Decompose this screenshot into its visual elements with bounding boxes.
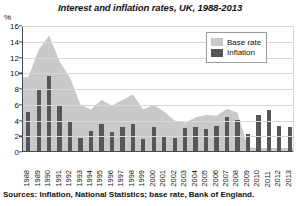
x-axis-tick-label: 1996	[107, 170, 115, 187]
inflation-bar	[288, 127, 292, 151]
y-axis: 0246810121416	[0, 26, 19, 152]
inflation-bar	[173, 138, 177, 151]
legend-label-inflation: Inflation	[227, 48, 255, 57]
legend-item-base-rate: Base rate	[211, 38, 261, 47]
x-axis-tick-label: 1994	[86, 170, 94, 187]
gridline	[23, 105, 294, 106]
x-axis-tick-label: 1995	[96, 170, 104, 187]
x-axis-tick-label: 2002	[170, 170, 178, 187]
chart-legend: Base rate Inflation	[206, 32, 267, 63]
x-axis-tick-label: 2001	[159, 170, 167, 187]
y-axis-tick-label: 2	[3, 132, 19, 141]
inflation-bar	[89, 131, 93, 151]
chart-figure: % Interest and inflation rates, UK, 1988…	[0, 0, 298, 206]
inflation-bar	[78, 138, 82, 151]
inflation-bar	[152, 127, 156, 151]
x-axis-tick-label: 1997	[117, 170, 125, 187]
inflation-bar	[277, 126, 281, 151]
legend-item-inflation: Inflation	[211, 48, 261, 57]
source-note: Sources: Inflation, National Statistics;…	[3, 190, 254, 199]
x-axis-tick-label: 2005	[201, 170, 209, 187]
x-axis-tick-label: 2008	[232, 170, 240, 187]
x-axis-tick-label: 1990	[44, 170, 52, 187]
y-axis-tick-label: 8	[3, 85, 19, 94]
x-axis-tick-label: 1989	[34, 170, 42, 187]
inflation-bar	[120, 127, 124, 151]
y-axis-tick-label: 4	[3, 116, 19, 125]
inflation-bar	[131, 124, 135, 151]
inflation-bar	[225, 117, 229, 151]
gridline	[23, 73, 294, 74]
inflation-bar	[99, 124, 103, 151]
x-axis-tick-label: 2013	[285, 170, 293, 187]
inflation-bar	[235, 120, 239, 152]
x-axis-tick-label: 2006	[212, 170, 220, 187]
x-axis-tick-label: 1991	[55, 170, 63, 187]
x-axis-tick-label: 2011	[264, 171, 272, 187]
inflation-bar	[267, 110, 271, 151]
x-axis-tick-label: 1998	[128, 170, 136, 187]
x-axis-tick-label: 1999	[138, 170, 146, 187]
y-axis-tick-label: 10	[3, 69, 19, 78]
x-axis-tick-label: 1993	[76, 170, 84, 187]
x-axis-tick-label: 2004	[191, 170, 199, 187]
x-axis-tick-label: 2000	[149, 170, 157, 187]
gridline	[23, 26, 294, 27]
y-axis-tick-label: 0	[3, 148, 19, 157]
inflation-bar	[162, 137, 166, 151]
x-axis-tick-label: 1988	[23, 170, 31, 187]
x-axis-tick-label: 2010	[253, 170, 261, 187]
inflation-bar	[214, 126, 218, 151]
y-axis-tick-label: 6	[3, 100, 19, 109]
legend-swatch-base-rate	[211, 38, 223, 46]
x-axis-tick-label: 1992	[65, 170, 73, 187]
x-axis-tick-label: 2012	[274, 170, 282, 187]
x-axis-tick-label: 2009	[243, 170, 251, 187]
inflation-bar	[110, 132, 114, 151]
inflation-bar	[141, 139, 145, 151]
y-axis-tick-label: 14	[3, 37, 19, 46]
legend-swatch-inflation	[211, 49, 223, 57]
y-axis-tick-label: 12	[3, 53, 19, 62]
gridline	[23, 121, 294, 122]
inflation-bar	[183, 128, 187, 151]
inflation-bar	[57, 105, 61, 151]
gridline	[23, 136, 294, 137]
y-axis-tick-label: 16	[3, 22, 19, 31]
inflation-bar	[26, 112, 30, 151]
x-axis-tick-label: 2003	[180, 170, 188, 187]
inflation-bar	[47, 76, 51, 151]
x-axis-tick-label: 2007	[222, 170, 230, 187]
inflation-bar	[193, 127, 197, 151]
x-axis-labels: 1988198919901991199219931994199519961997…	[22, 153, 294, 187]
chart-title: Interest and inflation rates, UK, 1988-2…	[30, 2, 270, 13]
gridline	[23, 89, 294, 90]
legend-label-base-rate: Base rate	[227, 38, 261, 47]
inflation-bar	[204, 129, 208, 151]
